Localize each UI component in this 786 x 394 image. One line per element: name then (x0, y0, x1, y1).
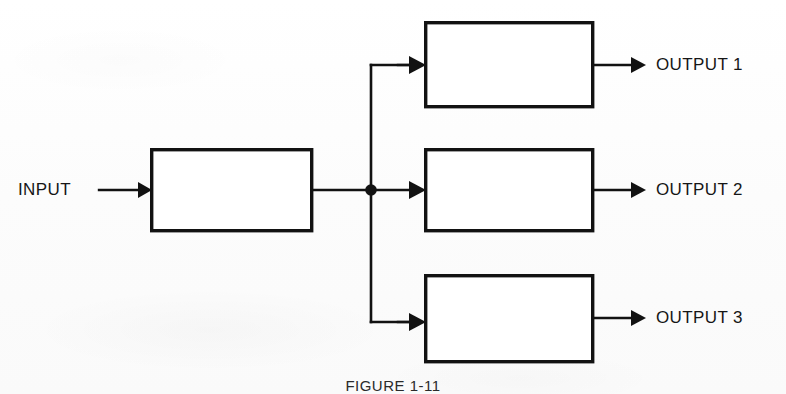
block-channel-3 (426, 276, 593, 362)
block-diagram: INPUT (0, 0, 786, 394)
output-arrow-3 (593, 310, 646, 326)
input-arrow (99, 182, 152, 198)
branch-arrow-bottom (398, 313, 426, 331)
figure-canvas: INPUT (0, 0, 786, 394)
output-3-label: OUTPUT 3 (656, 308, 743, 327)
output-arrow-2 (593, 182, 646, 198)
output-1-label: OUTPUT 1 (656, 55, 743, 74)
block-channel-1 (426, 23, 593, 107)
branch-arrow-top (398, 56, 426, 74)
input-label: INPUT (18, 180, 71, 199)
output-arrow-1 (593, 57, 646, 73)
block-channel-2 (426, 150, 593, 231)
branch-arrow-middle (376, 181, 426, 199)
figure-caption: FIGURE 1-11 (345, 377, 440, 394)
output-2-label: OUTPUT 2 (656, 180, 743, 199)
distribution-bus (371, 65, 412, 322)
block-input-stage (152, 150, 312, 231)
